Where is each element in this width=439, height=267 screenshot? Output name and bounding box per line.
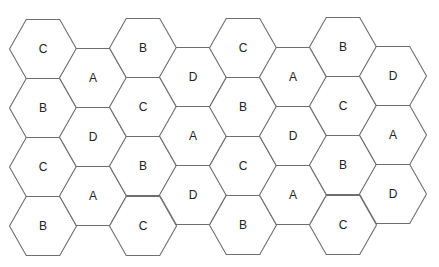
hex-cell-label: B [239,218,247,232]
hex-cell-label: D [189,188,198,202]
hex-cell-label: D [189,70,198,84]
hex-cell-label: C [339,99,348,113]
hexagon-cell-grid: CBCBADABCBCDADCBCBADABCBCDAD [0,0,439,267]
hex-cell-label: D [389,187,398,201]
hex-cell-label: D [89,130,98,144]
hex-column: DAD [160,48,227,225]
hex-cell-label: C [239,159,248,173]
hex-cell-label: C [339,218,348,232]
hex-cell-label: B [339,40,347,54]
hex-column: DAD [360,47,427,224]
hex-column: ADA [260,48,327,225]
hex-cell-label: D [389,69,398,83]
hex-cell-label: C [239,41,248,55]
hex-cell-label: A [189,129,197,143]
hex-cell-label: B [239,100,247,114]
hex-cell-label: C [139,219,148,233]
hex-cell-label: A [289,188,297,202]
hex-cell-label: A [389,128,397,142]
hex-cell-label: B [39,219,47,233]
hex-cell-label: C [39,160,48,174]
hex-column: ADA [60,49,127,226]
hex-cell-label: B [139,159,147,173]
hex-cell-label: D [289,129,298,143]
hex-cell-label: B [139,41,147,55]
hex-cell-label: C [39,42,48,56]
hex-cell-label: C [139,100,148,114]
hex-cell-label: A [89,71,97,85]
hex-cell-label: A [289,70,297,84]
hex-cell-label: A [89,189,97,203]
hex-cell-label: B [39,101,47,115]
hex-cell-label: B [339,158,347,172]
